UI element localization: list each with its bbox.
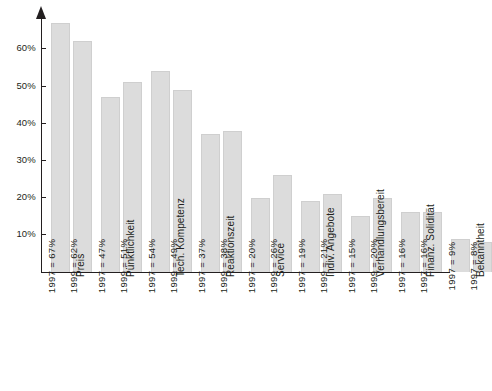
bar-value-label: 1997 = 9% bbox=[442, 242, 461, 291]
bar-value-label: 1997 = 37% bbox=[192, 239, 211, 293]
y-axis-tick-label-wrap: 30% bbox=[0, 154, 36, 165]
bar-value-label: 1997 = 15% bbox=[342, 239, 361, 293]
bar-value-label: 1997 = 19% bbox=[292, 239, 311, 293]
y-axis-tick-label: 30% bbox=[0, 154, 36, 165]
bar-value-label: 1997 = 47% bbox=[92, 239, 111, 293]
y-axis-tick-label: 10% bbox=[0, 228, 36, 239]
y-axis-tick-label: 20% bbox=[0, 191, 36, 202]
y-axis-tick-label: 40% bbox=[0, 117, 36, 128]
x-axis-category-label: Finanz. Solidität bbox=[426, 204, 436, 277]
x-axis-category-label: Bekanntheit bbox=[476, 223, 486, 277]
bar-value-label: 1997 = 20% bbox=[242, 239, 261, 293]
bar[interactable]: 1999 = 62% bbox=[73, 41, 92, 272]
y-axis-tick-label-wrap: 40% bbox=[0, 117, 36, 128]
x-axis-category-label: Indiv. Angebote bbox=[326, 207, 336, 277]
bar-value-label: 1997 = 54% bbox=[142, 239, 161, 293]
bar-value-label: 1997 = 16% bbox=[392, 239, 411, 293]
bar-value-label: 1997 = 67% bbox=[42, 239, 61, 293]
bar[interactable]: 1997 = 67% bbox=[51, 23, 70, 272]
y-axis-tick-label: 60% bbox=[0, 42, 36, 53]
x-axis-category-label: Preis bbox=[76, 254, 86, 277]
x-axis-category-label: Tech. Kompetenz bbox=[176, 198, 186, 277]
x-axis-category-label: Pünktlichkeit bbox=[126, 220, 136, 277]
y-axis-tick-label-wrap: 20% bbox=[0, 191, 36, 202]
x-axis-category-label: Verhandlungsbereit bbox=[376, 189, 386, 277]
y-axis-tick-label-wrap: 50% bbox=[0, 80, 36, 91]
y-axis-tick-label-wrap: 60% bbox=[0, 42, 36, 53]
x-axis-category-label: Service bbox=[276, 243, 286, 277]
y-axis-tick-label: 50% bbox=[0, 80, 36, 91]
x-axis-category-label: Reaktionszeit bbox=[226, 216, 236, 277]
plot-area: 1997 = 67%1999 = 62%1997 = 47%1999 = 51%… bbox=[42, 0, 450, 272]
y-axis-tick-label-wrap: 10% bbox=[0, 228, 36, 239]
